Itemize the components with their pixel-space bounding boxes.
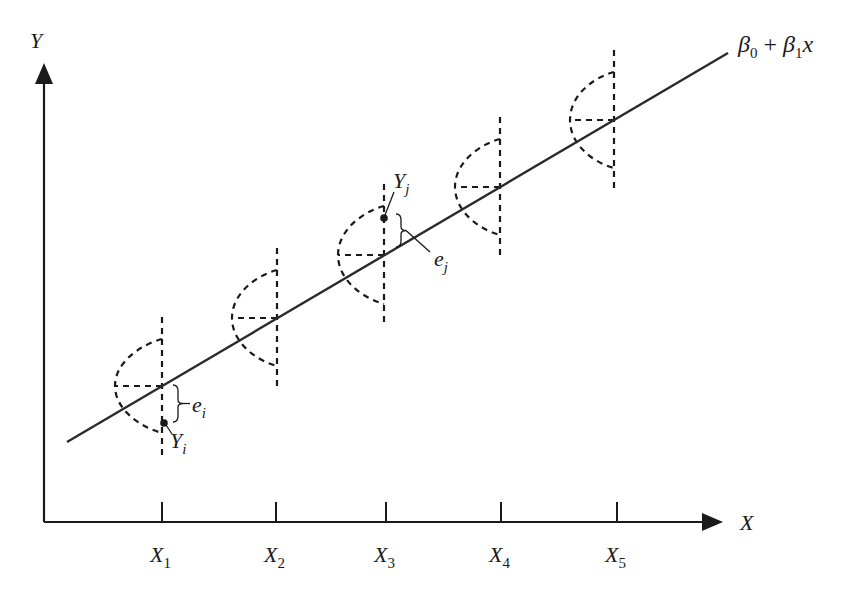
beta1-symbol: β <box>782 31 795 57</box>
tick-subscript: 2 <box>277 555 285 571</box>
x-tick-label-1: X1 <box>149 542 171 571</box>
residual-var: e <box>434 246 444 271</box>
residual-var: e <box>192 392 202 417</box>
x-axis-arrow-icon <box>702 513 723 531</box>
observation-Yi: Yiei <box>160 385 206 457</box>
residual-brace-icon <box>173 385 183 422</box>
beta0-symbol: β <box>737 31 750 57</box>
error-distribution-3 <box>338 184 384 323</box>
residual-label: ei <box>192 392 206 421</box>
regression-diagram: Y X X1X2X3X4X5 β0 + β1x YieiYjej <box>0 0 856 590</box>
tick-subscript: 4 <box>502 555 510 571</box>
label-leader <box>385 192 394 215</box>
beta0-subscript: 0 <box>750 45 758 61</box>
observation-subscript: i <box>182 441 186 457</box>
error-distributions <box>115 50 614 458</box>
x-tick-label-3: X3 <box>373 542 395 571</box>
tick-subscript: 1 <box>163 555 171 571</box>
observation-label: Yj <box>393 168 409 197</box>
observation-Yj: Yjej <box>380 168 448 275</box>
residual-label: ej <box>434 246 448 275</box>
x-tick-label-5: X5 <box>604 542 626 571</box>
x-variable: x <box>801 31 813 57</box>
x-tick-label-4: X4 <box>488 542 510 571</box>
observation-label: Yi <box>170 428 186 457</box>
beta1-subscript: 1 <box>795 45 803 61</box>
y-axis-arrow-icon <box>35 63 53 84</box>
error-distribution-5 <box>570 50 614 192</box>
x-axis-ticks: X1X2X3X4X5 <box>149 502 626 571</box>
error-distribution-4 <box>455 117 500 258</box>
tick-subscript: 3 <box>387 555 395 571</box>
error-distribution-2 <box>232 248 277 390</box>
tick-subscript: 5 <box>618 555 626 571</box>
data-point-icon <box>380 214 388 222</box>
regression-diagram-canvas: Y X X1X2X3X4X5 β0 + β1x YieiYjej <box>0 0 856 590</box>
x-axis-label: X <box>739 510 755 535</box>
error-distribution-1 <box>115 317 162 458</box>
residual-subscript: i <box>202 405 206 421</box>
x-tick-label-2: X2 <box>263 542 285 571</box>
y-axis-label: Y <box>30 28 45 53</box>
regression-equation-label: β0 + β1x <box>737 31 813 61</box>
plus-sign: + <box>757 31 783 57</box>
observations: YieiYjej <box>160 168 448 457</box>
